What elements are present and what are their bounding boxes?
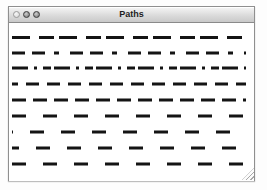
dash-lines-svg: [9, 23, 254, 181]
title-bar[interactable]: Paths: [9, 7, 254, 23]
page: Paths: [0, 0, 267, 190]
paths-window: Paths: [8, 6, 255, 181]
paths-canvas: [9, 23, 254, 181]
window-title: Paths: [9, 7, 254, 22]
